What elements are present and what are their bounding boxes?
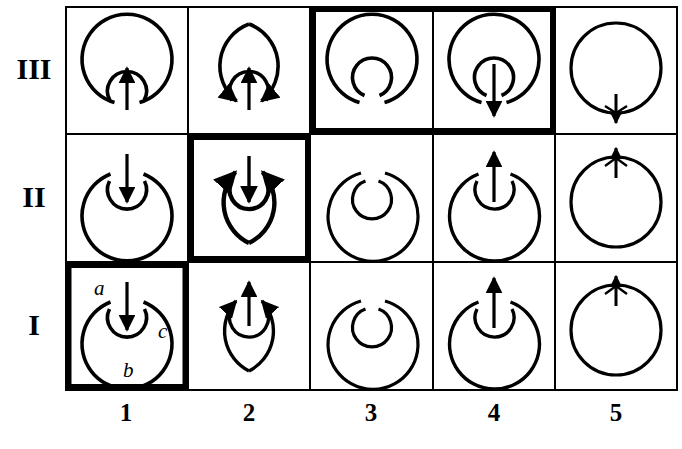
matrix-svg-canvas: a c b <box>65 6 678 391</box>
figure-grid-diagram: III II I 1 2 3 4 5 <box>0 0 682 449</box>
cell-iii-3 <box>327 14 417 102</box>
cell-i-5 <box>571 276 661 375</box>
cell-ii-4 <box>450 152 540 261</box>
cell-iii-2 <box>220 24 278 110</box>
inner-arc <box>353 309 392 347</box>
label-c: c <box>158 319 168 343</box>
cell-iii-1 <box>82 14 172 110</box>
cell-i-4 <box>450 278 540 389</box>
column-label-1: 1 <box>96 400 156 425</box>
outer-arc <box>328 173 418 261</box>
cell-i-1-labels: a c b <box>94 276 168 382</box>
label-b: b <box>123 358 134 382</box>
cell-ii-1 <box>82 154 172 261</box>
row-label-i: I <box>8 310 60 340</box>
column-label-4: 4 <box>464 400 524 425</box>
cell-ii-2 <box>224 156 275 243</box>
row-label-ii: II <box>8 182 60 212</box>
cell-i-3 <box>328 301 418 389</box>
label-a: a <box>94 276 105 300</box>
diagram-matrix: a c b <box>65 6 678 391</box>
cell-i-2 <box>225 282 274 371</box>
outer-arc-right <box>249 24 278 101</box>
column-label-2: 2 <box>219 400 279 425</box>
row-label-iii: III <box>8 54 60 84</box>
cell-iii-5 <box>571 23 661 123</box>
inner-arc <box>353 58 392 95</box>
outer-arc <box>328 301 418 389</box>
cell-ii-5 <box>571 148 661 247</box>
inner-arc <box>353 181 392 219</box>
cell-iii-4 <box>449 14 539 116</box>
cell-ii-3 <box>328 173 418 261</box>
outer-arc-left <box>220 24 249 101</box>
column-label-3: 3 <box>341 400 401 425</box>
column-label-5: 5 <box>586 400 646 425</box>
